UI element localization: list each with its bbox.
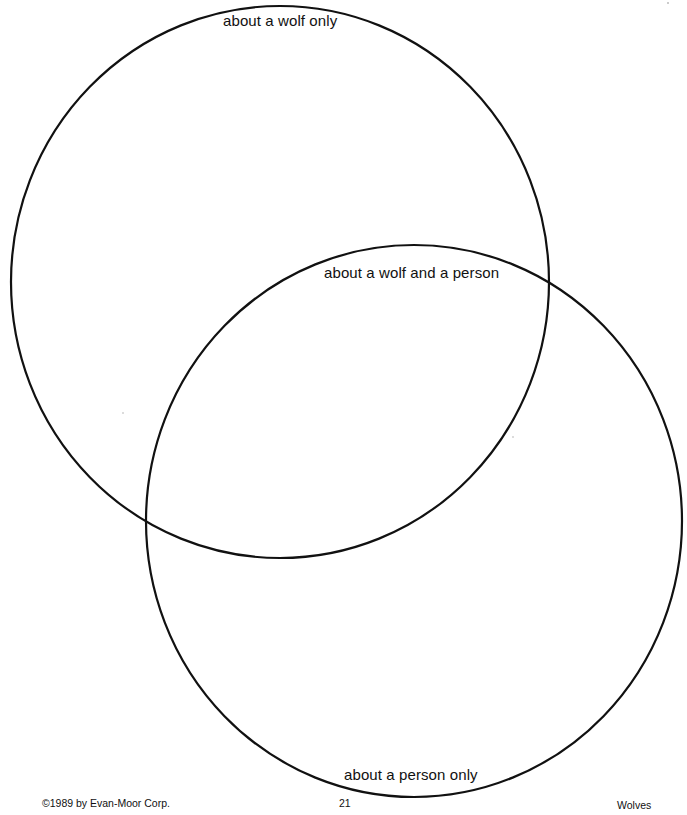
wolf-and-person-label: about a wolf and a person xyxy=(324,264,499,281)
person-only-label: about a person only xyxy=(344,766,478,783)
wolf-only-label: about a wolf only xyxy=(223,12,337,29)
page-number: 21 xyxy=(339,797,351,809)
copyright-text: ©1989 by Evan-Moor Corp. xyxy=(42,797,170,809)
scan-speck xyxy=(122,412,124,414)
venn-diagram xyxy=(0,0,687,815)
book-title: Wolves xyxy=(617,799,651,811)
scan-speck xyxy=(512,436,514,438)
scan-speck xyxy=(667,2,669,4)
